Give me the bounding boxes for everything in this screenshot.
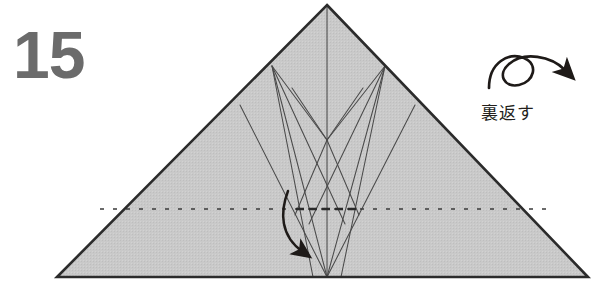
- step-number: 15: [13, 18, 84, 92]
- origami-diagram: 15 裏返す: [0, 0, 598, 287]
- origami-step-page: 15 裏返す: [0, 0, 598, 287]
- turn-over-arrow-icon: [489, 56, 565, 88]
- instruction-caption: 裏返す: [481, 103, 535, 123]
- triangle-fill: [57, 5, 588, 277]
- paper-shape: [57, 5, 588, 277]
